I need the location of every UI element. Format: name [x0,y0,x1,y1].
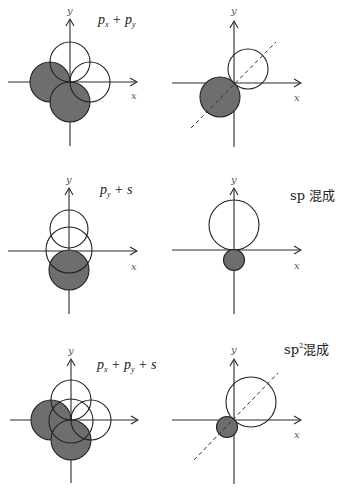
x-axis-label: x [294,92,300,103]
py-negative-lobe [50,82,90,122]
y-axis-label: y [67,345,74,356]
panel-sp-hybrid: y x sp 混成 [172,174,335,314]
dashed-axis-line [194,373,278,460]
y-axis-label: y [66,5,73,16]
x-axis-label: x [131,261,137,272]
panel-px-py-hybrid: y x [172,5,301,147]
formula-label: py + s [99,182,133,199]
panel-sp2-hybrid: y x sp2混成 [172,342,329,484]
y-axis-label: y [230,174,237,185]
x-axis-label: x [131,90,137,101]
x-axis-label: x [294,429,300,440]
hybrid-label: sp2混成 [284,342,329,357]
orbital-hybridization-diagram: y x px + py y x y x py + s y x [0,0,340,493]
formula-label: px + py [97,12,136,29]
x-axis-label: x [294,260,300,271]
y-axis-label: y [65,174,72,185]
panel-py-plus-s: y x py + s [8,174,137,314]
hybrid-label: sp 混成 [290,188,335,203]
y-axis-label: y [230,5,237,16]
py-negative-lobe [49,250,89,290]
formula-label: px + py + s [96,357,157,374]
py-negative-lobe [51,420,91,460]
panel-px-plus-py-plus-s: y px + py + s [10,345,157,483]
y-axis-label: y [230,344,237,355]
sp2-small-lobe [217,417,238,438]
panel-px-plus-py: y x px + py [8,5,137,146]
sp-small-lobe [224,250,245,271]
